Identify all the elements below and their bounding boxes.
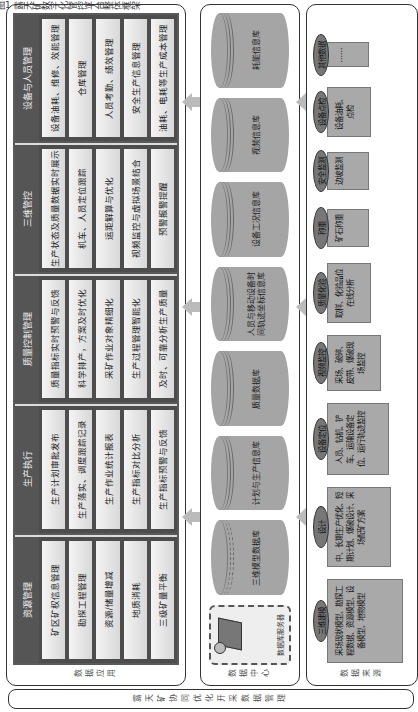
module-item: 及时、可靠分析生产质量: [151, 280, 174, 398]
module-3d: 三维管控 生产状态及质量数据实时展示 机车、人员定位跟踪 运距解算与优化 视频监…: [15, 143, 177, 271]
database-label: 计划与生产信息库: [235, 440, 279, 507]
module-title: 质量控制管理: [15, 276, 39, 402]
module-title: 资源管理: [15, 537, 39, 663]
module-item: 人员考勤、绩效管理: [96, 19, 119, 137]
module-item: 预警报警提醒: [151, 149, 174, 267]
source-tag: 称重: [313, 207, 329, 249]
module-item: 勘探工程管理: [69, 541, 92, 659]
module-item: 生产落实、调度跟踪记录: [69, 410, 92, 528]
module-resource: 资源管理 矿区矿权信息管理 勘探工程管理 资源/储量增减 地质消耗 三级矿量平衡: [15, 535, 177, 663]
bottom-strip: 露天矿协同优化开采数据管理: [8, 689, 414, 709]
database-label: 人员与移动设备时间轨迹坐标信息库: [235, 271, 279, 338]
database-equipment-condition: 设备工况信息库: [211, 182, 289, 257]
server-icon: [214, 618, 242, 652]
database-plan-production: 计划与生产信息库: [211, 436, 289, 511]
module-item: 生产指标对比分析: [124, 410, 147, 528]
module-item: 机车、人员定位跟踪: [69, 149, 92, 267]
database-3d-model: 三维模型数据库: [211, 520, 289, 595]
bottom-strip-label: 露天矿协同优化开采数据管理: [133, 694, 289, 705]
module-production: 生产执行 生产计划审批发布 生产落实、调度跟踪记录 生产作业统计报表 生产指标对…: [15, 404, 177, 532]
data-source-panel: 数据来源 三维建模 采场现状模型、勘探工程数据、资源模型、设备模型、地物模型 设…: [306, 4, 418, 686]
database-label: 视频信息库: [235, 102, 279, 169]
source-equipment-inspection: 设备点检 设备油耗、点检: [313, 87, 371, 137]
data-center-panel: 数据中心 数据库服务器 三维模型数据库 计划与生产信息库 质量数据库: [200, 4, 300, 686]
source-design: 设计 中、长期生产优化、短期计划、爆破设计、采场配矿方案: [313, 487, 391, 567]
source-card: 采场、破碎、皮带、爆破现场监控: [327, 335, 381, 391]
module-title: 生产执行: [15, 406, 39, 532]
database-video: 视频信息库: [211, 98, 289, 173]
source-card: 设备油耗、点检: [327, 87, 371, 137]
source-quality-assay: 质量化验 取样、化验品位在线分析: [313, 263, 371, 323]
module-item: 运距解算与优化: [96, 149, 119, 267]
module-item: 三级矿量平衡: [151, 541, 174, 659]
source-tag: 设备定位: [313, 418, 329, 460]
module-item: 资源/储量增减: [96, 541, 119, 659]
module-item: 质量指标实时预警与反馈: [42, 280, 65, 398]
module-item: 矿区矿权信息管理: [42, 541, 65, 659]
module-item: 设备油耗、维修、效能管理: [42, 19, 65, 137]
source-3d-modeling: 三维建模 采场现状模型、勘探工程数据、资源模型、设备模型、地物模型: [313, 579, 403, 663]
module-item: 科学排产，方案及时优化: [69, 280, 92, 398]
module-item: 生产过程管理智能化: [124, 280, 147, 398]
source-equipment-positioning: 设备定位 人员、钻机、铲车、运输设备定位、运行轨迹监控: [313, 403, 389, 475]
source-tag: 安全监测: [313, 150, 329, 192]
module-title: 三维管控: [15, 145, 39, 271]
module-item: 生产状态及质量数据实时展示: [42, 149, 65, 267]
module-quality: 质量控制管理 质量指标实时预警与反馈 科学排产，方案及时优化 采矿作业对象精细化…: [15, 274, 177, 402]
database-label: 三维模型数据库: [235, 524, 279, 591]
module-item: 视频监控与虚拟场景结合: [124, 149, 147, 267]
database-label: 设备工况信息库: [235, 186, 279, 253]
source-safety-monitoring: 安全监测 边坡监测: [313, 149, 369, 193]
module-item: 生产计划审批发布: [42, 410, 65, 528]
data-source-label: 数据来源: [340, 669, 384, 680]
database-label: 质量数据库: [235, 355, 279, 422]
source-card: 边坡监测: [327, 152, 369, 190]
module-item: 安全生产信息管理: [124, 19, 147, 137]
module-title: 设备与人员管理: [15, 15, 39, 141]
source-tag: 质量化验: [313, 272, 329, 314]
module-item: 生产作业统计报表: [96, 410, 119, 528]
source-card: ……: [327, 43, 369, 68]
database-energy: 耗能信息库: [211, 13, 289, 88]
module-item: 仓库管理: [69, 19, 92, 137]
source-card: 人员、钻机、铲车、运输设备定位、运行轨迹监控: [327, 403, 389, 475]
source-tag: 设计: [313, 506, 329, 548]
source-tag: 三维建模: [313, 600, 329, 642]
module-item: 油耗、电耗等生产成本管理: [151, 19, 174, 137]
source-card: 中、长期生产优化、短期计划、爆破设计、采场配矿方案: [327, 487, 391, 567]
source-video-monitoring: 视频监控 采场、破碎、皮带、爆破现场监控: [313, 335, 381, 391]
source-weighing: 称重 矿石称重: [313, 205, 369, 251]
database-label: 耗能信息库: [235, 17, 279, 84]
server-label: 数据库服务器: [277, 614, 286, 656]
module-item: 生产指标预警与反馈: [151, 410, 174, 528]
data-application-panel: 数据应用 资源管理 矿区矿权信息管理 勘探工程管理 资源/储量增减 地质消耗 三…: [6, 4, 186, 686]
module-item: 采矿作业对象精细化: [96, 280, 119, 398]
module-equipment-personnel: 设备与人员管理 设备油耗、维修、效能管理 仓库管理 人员考勤、绩效管理 安全生产…: [15, 15, 177, 141]
database-quality: 质量数据库: [211, 351, 289, 426]
database-trajectory: 人员与移动设备时间轨迹坐标信息库: [211, 267, 289, 342]
source-card: 矿石称重: [327, 209, 369, 247]
source-tag: 其他数据: [313, 34, 329, 76]
source-card: 取样、化验品位在线分析: [327, 263, 371, 323]
source-tag: 设备点检: [313, 91, 329, 133]
figure-caption: 图1 露天矿数字化管控平台整体框架: [0, 0, 140, 11]
module-item: 地质消耗: [124, 541, 147, 659]
data-center-label: 数据中心: [228, 669, 272, 680]
source-tag: 视频监控: [313, 342, 329, 384]
source-card: 采场现状模型、勘探工程数据、资源模型、设备模型、地物模型: [327, 579, 403, 663]
source-other: 其他数据 ……: [313, 35, 369, 75]
data-application-label: 数据应用: [74, 669, 118, 680]
database-server: 数据库服务器: [209, 605, 291, 665]
